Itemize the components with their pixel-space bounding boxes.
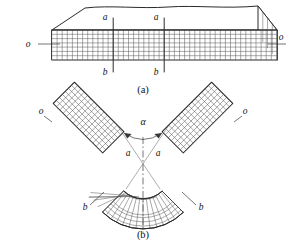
label-apex-a-left: a (126, 148, 131, 158)
angle-arrow-left (124, 133, 132, 139)
caption-panel-a: (a) (137, 84, 149, 96)
label-right-o-b: o (243, 106, 248, 116)
label-b-right: b (154, 67, 159, 77)
leader-right-b-b (182, 192, 196, 205)
leader-left-b-b (90, 192, 104, 205)
leader-left-o-b (44, 116, 52, 122)
label-left-o-b: o (39, 106, 44, 116)
angle-arrow-right (154, 133, 162, 139)
label-outer-b-left: b (83, 202, 88, 212)
label-b-left: b (103, 67, 108, 77)
label-outer-b-right: b (199, 202, 204, 212)
figure-root: o o a a b b (a) (0, 0, 287, 242)
beam-bending-figure: o o a a b b (a) (0, 0, 287, 242)
angle-ray-right (126, 125, 169, 189)
angle-ray-left (117, 125, 160, 189)
label-a-left: a (103, 12, 108, 22)
bent-arm-left (53, 82, 124, 153)
label-left-o-a: o (26, 39, 31, 49)
arm-left-body (53, 82, 124, 153)
panel-b: o o α a a b b (b) (39, 82, 248, 241)
arm-right-body (162, 82, 233, 153)
label-a-right: a (154, 12, 159, 22)
bent-arm-right (162, 82, 233, 153)
leader-right-o-b (234, 116, 242, 122)
label-apex-a-right: a (156, 148, 161, 158)
panel-a: o o a a b b (a) (26, 6, 286, 96)
caption-panel-b: (b) (137, 229, 150, 241)
label-right-o-a: o (279, 32, 284, 42)
label-alpha: α (140, 116, 146, 127)
